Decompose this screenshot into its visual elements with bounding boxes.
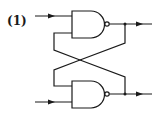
top-input-arrow-icon xyxy=(48,14,55,19)
sr-latch-diagram xyxy=(0,0,163,116)
bottom-nand-gate xyxy=(72,81,105,108)
top-junction-dot xyxy=(124,23,127,26)
bottom-input-arrow-icon xyxy=(48,100,55,105)
bottom-junction-dot xyxy=(124,93,127,96)
top-nand-gate xyxy=(72,11,105,38)
top-inversion-bubble xyxy=(105,22,109,26)
top-output-arrow-icon xyxy=(136,22,143,27)
bottom-feedback-wire xyxy=(54,33,125,94)
bottom-inversion-bubble xyxy=(105,92,109,96)
bottom-output-arrow-icon xyxy=(136,92,143,97)
